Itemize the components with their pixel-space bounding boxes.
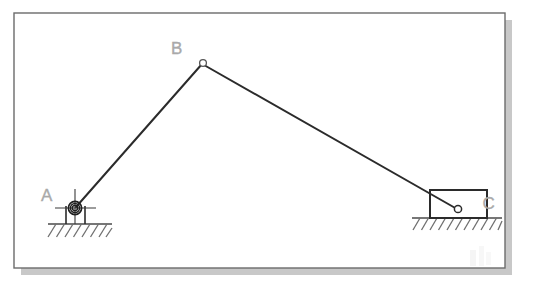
- pin-joint-C: [454, 205, 461, 212]
- vertex-label-C: C: [483, 194, 496, 213]
- vertex-label-B: B: [171, 39, 183, 58]
- drawing-border: [14, 13, 505, 268]
- mechanism-figure: A B C: [0, 0, 543, 288]
- pin-joint-B: [200, 60, 207, 67]
- mechanism-diagram-canvas: A B C: [0, 0, 543, 288]
- vertex-label-A: A: [41, 186, 53, 205]
